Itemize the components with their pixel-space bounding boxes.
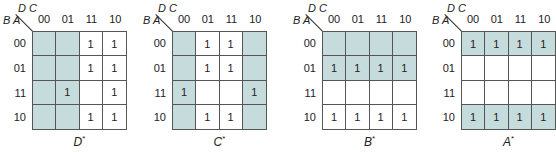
kmap-cell <box>462 81 485 105</box>
kmap-cell <box>173 105 196 129</box>
kmap-cell: 1 <box>393 56 416 80</box>
kmap-cell: 1 <box>509 32 532 56</box>
kmap-cell <box>33 105 56 129</box>
kmap-grid: 11111111 <box>322 31 417 130</box>
kmap-cell: 1 <box>173 81 196 105</box>
kmap-cell <box>220 81 243 105</box>
kmap-cell: 1 <box>485 32 508 56</box>
row-header: 00 <box>298 37 316 49</box>
next-state-asterisk: * <box>511 134 514 143</box>
kmap-cell: 1 <box>370 105 393 129</box>
row-header: 01 <box>437 62 455 74</box>
column-header: 10 <box>532 13 556 25</box>
kmap-cell <box>485 56 508 80</box>
kmap-cell <box>33 32 56 56</box>
kmap-cell: 1 <box>196 56 219 80</box>
kmap-cell: 1 <box>80 56 103 80</box>
function-name: A <box>503 135 511 149</box>
kmap-cell: 1 <box>80 32 103 56</box>
function-label: C* <box>172 134 267 149</box>
kmap-cell <box>485 81 508 105</box>
function-name: C <box>214 135 223 149</box>
kmap-cell <box>33 56 56 80</box>
kmap-cell: 1 <box>323 56 346 80</box>
kmap-cell <box>462 56 485 80</box>
kmap-cell: 1 <box>56 81 79 105</box>
next-state-asterisk: * <box>372 134 375 143</box>
kmap-cell: 1 <box>220 56 243 80</box>
kmap-cell <box>33 81 56 105</box>
column-header: 11 <box>220 13 244 25</box>
kmap-cell <box>532 81 555 105</box>
row-header: 10 <box>298 111 316 123</box>
kmap-cell <box>370 32 393 56</box>
kmap-cell <box>393 81 416 105</box>
column-header: 00 <box>172 13 196 25</box>
column-header: 11 <box>509 13 533 25</box>
row-header: 00 <box>8 37 26 49</box>
kmap-cell <box>173 32 196 56</box>
kmap-cell: 1 <box>346 56 369 80</box>
row-header: 11 <box>8 87 26 99</box>
column-header: 01 <box>485 13 509 25</box>
column-header: 00 <box>461 13 485 25</box>
kmap-cell <box>243 105 266 129</box>
kmap-cell: 1 <box>532 105 555 129</box>
function-label: B* <box>322 134 417 149</box>
column-header: 11 <box>80 13 104 25</box>
kmap-cell: 1 <box>220 105 243 129</box>
kmap-cell: 1 <box>485 105 508 129</box>
row-header: 01 <box>298 62 316 74</box>
kmap-cell: 1 <box>323 105 346 129</box>
column-header: 00 <box>322 13 346 25</box>
row-header: 11 <box>437 87 455 99</box>
kmap-cell: 1 <box>370 56 393 80</box>
row-header: 00 <box>437 37 455 49</box>
kmap-cell <box>80 81 103 105</box>
kmap-cell <box>56 56 79 80</box>
kmap-cell <box>196 81 219 105</box>
kmap-cell <box>323 32 346 56</box>
kmap-cell: 1 <box>196 105 219 129</box>
kmap-cell <box>509 56 532 80</box>
function-label: D* <box>32 134 127 149</box>
kmap-cell: 1 <box>103 56 126 80</box>
row-header: 11 <box>298 87 316 99</box>
kmap-grid: 11111111 <box>172 31 267 130</box>
function-name: D <box>74 135 83 149</box>
kmap-cell <box>56 105 79 129</box>
kmap-cell <box>393 32 416 56</box>
row-header: 01 <box>8 62 26 74</box>
column-header: 11 <box>370 13 394 25</box>
kmap-grid: 11111111 <box>461 31 556 130</box>
kmap-cell: 1 <box>80 105 103 129</box>
column-header: 10 <box>243 13 267 25</box>
kmap-grid: 11111111 <box>32 31 127 130</box>
kmap-cell <box>370 81 393 105</box>
row-header: 10 <box>148 111 166 123</box>
next-state-asterisk: * <box>82 134 85 143</box>
kmap-cell: 1 <box>196 32 219 56</box>
row-header: 11 <box>148 87 166 99</box>
kmap-cell: 1 <box>462 32 485 56</box>
kmap-cell <box>323 81 346 105</box>
kmap-cell: 1 <box>220 32 243 56</box>
kmap-cell <box>509 81 532 105</box>
column-header: 00 <box>32 13 56 25</box>
kmap-cell: 1 <box>532 32 555 56</box>
column-header: 10 <box>393 13 417 25</box>
row-header: 10 <box>437 111 455 123</box>
kmap-cell: 1 <box>509 105 532 129</box>
kmap-cell <box>346 32 369 56</box>
column-header: 01 <box>196 13 220 25</box>
kmap-cell: 1 <box>103 32 126 56</box>
function-label: A* <box>461 134 556 149</box>
kmap-cell: 1 <box>346 105 369 129</box>
kmap-cell <box>243 56 266 80</box>
kmap-cell: 1 <box>393 105 416 129</box>
column-header: 01 <box>56 13 80 25</box>
kmap-cell: 1 <box>462 105 485 129</box>
row-header: 00 <box>148 37 166 49</box>
kmap-cell <box>532 56 555 80</box>
column-header: 01 <box>346 13 370 25</box>
